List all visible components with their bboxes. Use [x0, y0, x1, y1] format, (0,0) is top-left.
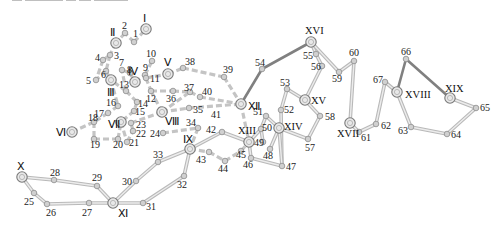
- node-label-27: 27: [82, 207, 92, 218]
- node-label-41: 41: [211, 109, 221, 120]
- node-marker-5: [93, 77, 99, 83]
- node-marker-24: [160, 130, 166, 136]
- hub-marker-VI: [67, 127, 77, 137]
- node-marker-23: [128, 120, 134, 126]
- node-marker-30: [133, 178, 139, 184]
- node-label-6: 6: [101, 69, 106, 80]
- hub-marker-XVII: [345, 118, 355, 128]
- node-label-5: 5: [86, 75, 91, 86]
- node-marker-1: [131, 39, 137, 45]
- node-label-62: 62: [381, 120, 391, 131]
- node-label-7: 7: [119, 57, 124, 68]
- node-marker-65: [473, 105, 479, 111]
- node-label-13: 13: [119, 79, 129, 90]
- solid-edge-core: [54, 180, 97, 186]
- node-marker-52: [278, 107, 284, 113]
- node-label-47: 47: [286, 161, 296, 172]
- hub-label-II: Ⅱ: [110, 27, 115, 38]
- solid-edge-core: [376, 82, 385, 124]
- hub-label-XII: Ⅻ: [248, 101, 260, 112]
- node-marker-67: [382, 79, 388, 85]
- node-marker-66: [403, 56, 409, 62]
- node-label-38: 38: [185, 56, 195, 67]
- node-label-42: 42: [206, 124, 216, 135]
- node-marker-51: [263, 113, 269, 119]
- hub-label-XVIII: XVIII: [405, 89, 431, 100]
- node-marker-25: [31, 190, 37, 196]
- hub-label-IX: Ⅸ: [183, 134, 193, 145]
- node-marker-11: [143, 75, 149, 81]
- node-label-19: 19: [90, 139, 100, 150]
- hub-label-XIX: XIX: [445, 83, 464, 94]
- node-marker-58: [317, 113, 323, 119]
- node-label-56: 56: [311, 61, 321, 72]
- node-label-44: 44: [218, 163, 228, 174]
- node-label-66: 66: [401, 46, 411, 57]
- hub-marker-XII: [236, 99, 246, 109]
- hub-label-VIII: Ⅷ: [165, 116, 179, 127]
- node-marker-33: [155, 159, 161, 165]
- node-label-11: 11: [150, 73, 160, 84]
- hub-marker-XI: [108, 198, 118, 208]
- hub-marker-XIX: [445, 93, 455, 103]
- solid-edge-core: [47, 203, 89, 204]
- dashed-edge: [183, 68, 224, 77]
- hub-label-VI: Ⅵ: [56, 127, 66, 138]
- node-label-31: 31: [146, 201, 156, 212]
- node-marker-16: [115, 103, 121, 109]
- node-label-20: 20: [113, 139, 123, 150]
- hub-label-XVI: XVI: [305, 25, 324, 36]
- node-marker-3: [107, 52, 113, 58]
- node-marker-31: [140, 200, 146, 206]
- node-marker-28: [51, 177, 57, 183]
- node-label-32: 32: [177, 179, 187, 190]
- node-marker-64: [444, 131, 450, 137]
- hub-marker-IV: [130, 77, 140, 87]
- node-marker-62: [373, 121, 379, 127]
- solid-edge-core: [411, 127, 447, 134]
- node-label-60: 60: [349, 47, 359, 58]
- node-label-57: 57: [305, 142, 315, 153]
- node-label-61: 61: [361, 132, 371, 143]
- hub-label-I: Ⅰ: [143, 13, 146, 24]
- node-label-26: 26: [46, 207, 56, 218]
- hub-marker-XVI: [306, 37, 316, 47]
- node-labels: 1234567891011121314151617181920212223242…: [17, 13, 490, 219]
- node-marker-39: [221, 74, 227, 80]
- node-marker-26: [44, 201, 50, 207]
- node-marker-60: [351, 58, 357, 64]
- node-marker-32: [181, 173, 187, 179]
- node-label-63: 63: [398, 125, 408, 136]
- hub-marker-XIV: [274, 123, 284, 133]
- solid-edge-core: [136, 162, 158, 181]
- hub-label-V: Ⅴ: [164, 57, 172, 68]
- node-label-50: 50: [262, 122, 272, 133]
- hub-marker-IX: [185, 144, 195, 154]
- hub-label-XI: Ⅺ: [118, 208, 128, 219]
- node-label-34: 34: [186, 117, 196, 128]
- hub-marker-I: [141, 24, 151, 34]
- hub-label-XIV: XIV: [284, 121, 303, 132]
- node-label-28: 28: [50, 167, 60, 178]
- hub-label-VII: Ⅶ: [108, 119, 120, 130]
- node-marker-43: [206, 149, 212, 155]
- node-label-43: 43: [196, 154, 206, 165]
- node-marker-17: [105, 110, 111, 116]
- node-label-67: 67: [373, 74, 383, 85]
- hub-marker-X: [17, 172, 27, 182]
- dark-edge: [241, 69, 262, 104]
- node-label-49: 49: [254, 137, 264, 148]
- node-marker-57: [305, 136, 311, 142]
- node-label-15: 15: [135, 106, 145, 117]
- node-label-9: 9: [143, 62, 148, 73]
- hub-label-X: Ⅹ: [17, 161, 25, 172]
- hub-label-XVII: XVII: [337, 128, 360, 139]
- node-marker-29: [94, 183, 100, 189]
- node-label-2: 2: [122, 20, 127, 31]
- hub-label-XIII: XIII: [238, 125, 257, 136]
- node-label-10: 10: [146, 48, 156, 59]
- node-label-25: 25: [24, 196, 34, 207]
- hub-marker-XV: [300, 95, 310, 105]
- node-label-23: 23: [136, 119, 146, 130]
- hub-label-XV: XV: [311, 95, 327, 106]
